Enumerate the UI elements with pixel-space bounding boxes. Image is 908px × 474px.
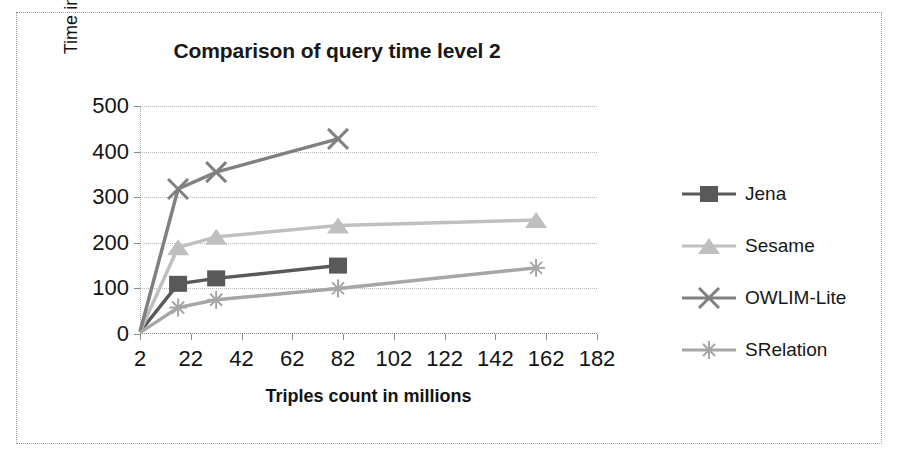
chart-legend: JenaSesameOWLIM-LiteSRelation: [682, 168, 882, 376]
x-tick: [292, 334, 293, 340]
y-tick-label: 400: [92, 139, 129, 165]
legend-marker-square-icon: [682, 184, 736, 204]
x-tick-label: 82: [331, 346, 355, 372]
x-tick-label: 102: [376, 346, 413, 372]
legend-marker-x-icon: [682, 288, 736, 308]
x-tick-label: 22: [179, 346, 203, 372]
x-tick: [546, 334, 547, 340]
x-tick-label: 42: [229, 346, 253, 372]
data-point-square: [329, 258, 347, 274]
y-tick-label: 0: [117, 321, 129, 347]
x-tick: [343, 334, 344, 340]
x-tick: [394, 334, 395, 340]
data-point-x: [168, 179, 188, 199]
legend-label: Jena: [745, 183, 786, 205]
legend-item-owlim-lite[interactable]: OWLIM-Lite: [682, 272, 882, 324]
legend-label: SRelation: [745, 339, 827, 361]
legend-marker-triangle-icon: [682, 236, 736, 256]
plot-area: 0100200300400500 22242628210212214216218…: [140, 106, 597, 334]
x-tick-label: 162: [528, 346, 565, 372]
x-tick: [597, 334, 598, 340]
y-tick-label: 300: [92, 184, 129, 210]
legend-label: OWLIM-Lite: [745, 287, 846, 309]
legend-marker-star-icon: [682, 340, 736, 360]
x-tick-label: 122: [426, 346, 463, 372]
x-axis-title: Triples count in millions: [140, 386, 597, 407]
y-tick-label: 500: [92, 93, 129, 119]
data-point-star: [527, 259, 545, 277]
data-point-x: [206, 162, 226, 182]
data-point-triangle: [698, 238, 720, 254]
x-tick: [140, 334, 141, 340]
y-tick-label: 200: [92, 230, 129, 256]
x-tick: [495, 334, 496, 340]
series-line-sesame: [140, 220, 536, 332]
legend-label: Sesame: [745, 235, 815, 257]
series-plot: [140, 106, 597, 334]
x-tick-label: 62: [280, 346, 304, 372]
data-point-star: [329, 279, 347, 297]
data-point-star: [700, 341, 718, 359]
data-point-square: [169, 276, 187, 292]
legend-item-srelation[interactable]: SRelation: [682, 324, 882, 376]
x-tick-label: 142: [477, 346, 514, 372]
data-point-star: [207, 291, 225, 309]
legend-item-sesame[interactable]: Sesame: [682, 220, 882, 272]
y-axis-title: Time in seconds: [61, 0, 82, 109]
y-tick-label: 100: [92, 275, 129, 301]
x-tick-label: 2: [134, 346, 146, 372]
series-line-srelation: [140, 268, 536, 333]
data-point-triangle: [167, 239, 189, 255]
chart-frame: Comparison of query time level 2 Time in…: [16, 12, 882, 444]
legend-item-jena[interactable]: Jena: [682, 168, 882, 220]
data-point-x: [328, 129, 348, 149]
data-point-square: [700, 186, 718, 202]
x-tick-label: 182: [579, 346, 616, 372]
x-tick: [445, 334, 446, 340]
data-point-x: [699, 288, 719, 308]
data-point-square: [207, 270, 225, 286]
data-point-star: [169, 299, 187, 317]
x-tick: [242, 334, 243, 340]
chart-title: Comparison of query time level 2: [17, 39, 657, 63]
x-tick: [191, 334, 192, 340]
